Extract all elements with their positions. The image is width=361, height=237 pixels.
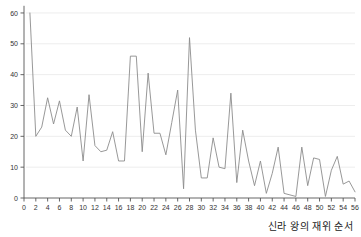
y-axis-tick-label: 60 xyxy=(10,10,18,17)
y-axis-tick-label: 30 xyxy=(10,102,18,109)
x-axis-tick-label: 8 xyxy=(69,204,73,211)
y-axis-tick-label: 10 xyxy=(10,164,18,171)
x-axis-tick-label: 34 xyxy=(221,204,229,211)
x-axis-tick-label: 42 xyxy=(268,204,276,211)
line-chart: 0102030405060024681012141618202224262830… xyxy=(0,0,361,237)
x-axis-tick-label: 4 xyxy=(46,204,50,211)
x-axis-tick-label: 28 xyxy=(186,204,194,211)
x-axis-tick-label: 54 xyxy=(339,204,347,211)
y-axis-tick-label: 20 xyxy=(10,133,18,140)
y-axis-tick-label: 40 xyxy=(10,71,18,78)
x-axis-tick-label: 36 xyxy=(233,204,241,211)
x-axis-tick-label: 44 xyxy=(280,204,288,211)
x-axis-tick-label: 10 xyxy=(79,204,87,211)
x-axis-tick-label: 2 xyxy=(34,204,38,211)
y-axis-tick-label: 50 xyxy=(10,40,18,47)
x-axis-tick-label: 16 xyxy=(115,204,123,211)
x-axis-tick-label: 6 xyxy=(58,204,62,211)
x-axis-tick-label: 26 xyxy=(174,204,182,211)
x-axis-tick-label: 40 xyxy=(257,204,265,211)
x-axis-tick-label: 52 xyxy=(327,204,335,211)
x-axis-tick-label: 12 xyxy=(91,204,99,211)
x-axis-tick-label: 50 xyxy=(316,204,324,211)
x-axis-tick-label: 32 xyxy=(209,204,217,211)
x-axis-tick-label: 24 xyxy=(162,204,170,211)
x-axis-tick-label: 14 xyxy=(103,204,111,211)
x-axis-tick-label: 38 xyxy=(245,204,253,211)
x-axis-tick-label: 56 xyxy=(351,204,359,211)
x-axis-tick-label: 20 xyxy=(138,204,146,211)
x-axis-tick-label: 18 xyxy=(126,204,134,211)
x-axis-title: 신라 왕의 재위 순서 xyxy=(268,218,353,233)
x-axis-tick-label: 0 xyxy=(22,204,26,211)
x-axis-tick-label: 30 xyxy=(197,204,205,211)
y-axis-tick-label: 0 xyxy=(14,195,18,202)
x-axis-tick-label: 46 xyxy=(292,204,300,211)
chart-container: 0102030405060024681012141618202224262830… xyxy=(0,0,361,237)
x-axis-tick-label: 22 xyxy=(150,204,158,211)
x-axis-tick-label: 48 xyxy=(304,204,312,211)
data-series-line xyxy=(30,13,355,196)
